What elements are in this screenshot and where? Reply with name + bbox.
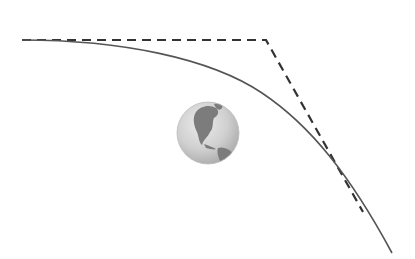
diagram-canvas — [0, 0, 415, 259]
orbit-diagram — [0, 0, 415, 259]
earth-globe-icon — [177, 102, 239, 166]
